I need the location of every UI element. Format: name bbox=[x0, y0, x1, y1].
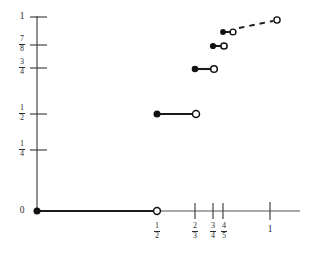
fraction-1-4: 1 4 bbox=[19, 140, 25, 159]
fraction-numerator: 1 bbox=[19, 140, 25, 149]
y-tick-label-1-2: 1 2 bbox=[16, 104, 28, 123]
y-tick-label-1-4: 1 4 bbox=[16, 140, 28, 159]
fraction-numerator: 1 bbox=[19, 104, 25, 113]
fraction-denominator: 8 bbox=[19, 44, 25, 54]
open-dot-segment-1-right bbox=[193, 111, 200, 118]
y-tick-label-3-4: 3 4 bbox=[16, 58, 28, 77]
x-tick-label-4-5: 4 5 bbox=[218, 222, 230, 241]
fraction-denominator: 2 bbox=[19, 113, 25, 123]
fraction-denominator: 4 bbox=[19, 149, 25, 159]
open-dot-segment-3-right bbox=[221, 43, 227, 49]
closed-dot-origin bbox=[34, 208, 41, 215]
fraction-numerator: 3 bbox=[19, 58, 25, 67]
fraction-denominator: 2 bbox=[154, 231, 160, 241]
endpoint-markers bbox=[34, 17, 281, 215]
fraction-numerator: 4 bbox=[221, 222, 227, 231]
fraction-3-4: 3 4 bbox=[19, 58, 25, 77]
fraction-denominator: 3 bbox=[192, 231, 198, 241]
y-tick-label-7-8: 7 8 bbox=[16, 35, 28, 54]
y-tick-label-1: 1 bbox=[16, 12, 28, 22]
closed-dot-segment-2-left bbox=[192, 66, 199, 73]
y-axis-ticks bbox=[30, 17, 47, 150]
fraction-denominator: 5 bbox=[221, 231, 227, 241]
origin-label: 0 bbox=[16, 206, 28, 216]
plot-canvas bbox=[0, 0, 322, 254]
open-dot-half-zero bbox=[154, 208, 161, 215]
fraction-2-3: 2 3 bbox=[192, 222, 198, 241]
fraction-7-8: 7 8 bbox=[19, 35, 25, 54]
closed-dot-segment-1-left bbox=[154, 111, 161, 118]
closed-dot-segment-3-left bbox=[210, 43, 216, 49]
fraction-denominator: 4 bbox=[19, 67, 25, 77]
fraction-numerator: 1 bbox=[154, 222, 160, 231]
fraction-4-5: 4 5 bbox=[221, 222, 227, 241]
fraction-1-2: 1 2 bbox=[154, 222, 160, 241]
fraction-numerator: 3 bbox=[210, 222, 216, 231]
fraction-1-2: 1 2 bbox=[19, 104, 25, 123]
closed-dot-segment-4-left bbox=[220, 29, 226, 35]
x-tick-label-2-3: 2 3 bbox=[189, 222, 201, 241]
fraction-3-4: 3 4 bbox=[210, 222, 216, 241]
fraction-numerator: 7 bbox=[19, 35, 25, 44]
open-dot-limit-point bbox=[274, 17, 280, 23]
segment-5-dashed-line bbox=[239, 21, 273, 28]
fraction-denominator: 4 bbox=[210, 231, 216, 241]
x-tick-label-1-2: 1 2 bbox=[151, 222, 163, 241]
step-function-figure: 1 7 8 3 4 1 2 1 4 0 1 2 2 bbox=[0, 0, 322, 254]
open-dot-segment-2-right bbox=[211, 66, 218, 73]
x-tick-label-1: 1 bbox=[264, 225, 276, 235]
open-dot-segment-4-right bbox=[230, 29, 236, 35]
fraction-numerator: 2 bbox=[192, 222, 198, 231]
